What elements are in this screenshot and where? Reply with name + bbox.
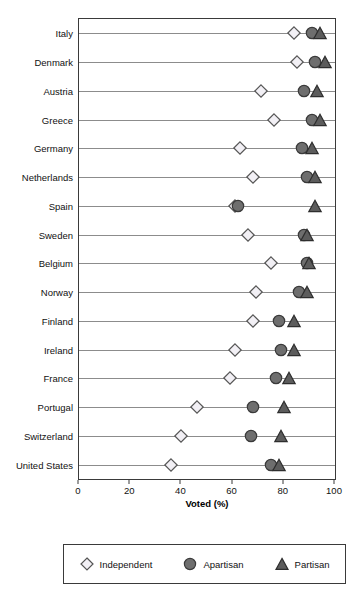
category-label: Spain [49, 200, 73, 211]
data-point-apartisan [244, 429, 258, 443]
plot-wrapper: ItalyDenmarkAustriaGreeceGermanyNetherla… [0, 0, 358, 510]
chart-legend: Independent Apartisan Partisan [63, 544, 346, 584]
data-point-partisan [277, 400, 291, 414]
data-point-partisan [287, 343, 301, 357]
category-label: Italy [56, 28, 73, 39]
x-axis-tick-label: 100 [326, 485, 342, 496]
category-label: United States [16, 459, 73, 470]
data-point-independent [228, 343, 242, 357]
x-axis-tick-label: 80 [278, 485, 289, 496]
data-point-partisan [282, 371, 296, 385]
category-label: Netherlands [22, 172, 73, 183]
x-axis-tick-label: 0 [75, 485, 80, 496]
row-connector-line [79, 465, 335, 466]
data-point-independent [287, 26, 301, 40]
data-point-partisan [287, 314, 301, 328]
x-axis-tick-label: 60 [226, 485, 237, 496]
data-point-apartisan [231, 199, 245, 213]
x-axis-tick [180, 480, 181, 484]
data-point-partisan [272, 458, 286, 472]
data-point-partisan [308, 199, 322, 213]
x-axis-tick [78, 480, 79, 484]
category-label: Sweden [39, 229, 73, 240]
data-point-independent [241, 228, 255, 242]
data-point-apartisan [272, 314, 286, 328]
row-connector-line [79, 378, 335, 379]
data-point-partisan [305, 141, 319, 155]
category-label: Switzerland [24, 430, 73, 441]
category-label: Denmark [34, 57, 73, 68]
chart-page: ItalyDenmarkAustriaGreeceGermanyNetherla… [0, 0, 358, 603]
x-axis-tick-label: 20 [124, 485, 135, 496]
data-point-partisan [308, 170, 322, 184]
data-point-independent [164, 458, 178, 472]
data-point-independent [267, 113, 281, 127]
data-point-apartisan [246, 400, 260, 414]
category-label: Norway [41, 287, 73, 298]
legend-label-independent: Independent [100, 559, 153, 570]
data-point-independent [254, 84, 268, 98]
legend-label-apartisan: Apartisan [203, 559, 243, 570]
legend-item-partisan: Partisan [275, 557, 330, 571]
x-axis-tick [334, 480, 335, 484]
data-point-independent [246, 170, 260, 184]
data-point-partisan [313, 26, 327, 40]
row-connector-line [79, 263, 335, 264]
category-label: Portugal [38, 402, 73, 413]
data-point-independent [290, 55, 304, 69]
data-point-independent [190, 400, 204, 414]
data-point-partisan [310, 84, 324, 98]
data-point-independent [233, 141, 247, 155]
category-label: France [43, 373, 73, 384]
data-point-independent [174, 429, 188, 443]
circle-filled-icon [183, 557, 197, 571]
row-connector-line [79, 206, 335, 207]
row-connector-line [79, 436, 335, 437]
triangle-filled-icon [275, 557, 289, 571]
legend-item-apartisan: Apartisan [183, 557, 243, 571]
data-point-partisan [318, 55, 332, 69]
legend-label-partisan: Partisan [295, 559, 330, 570]
x-axis-tick [282, 480, 283, 484]
data-point-independent [223, 371, 237, 385]
category-label: Finland [42, 315, 73, 326]
row-connector-line [79, 177, 335, 178]
x-axis-tick [231, 480, 232, 484]
data-point-independent [264, 256, 278, 270]
x-axis: Voted (%) 020406080100 [78, 480, 336, 510]
x-axis-title: Voted (%) [78, 498, 336, 509]
category-label: Germany [34, 143, 73, 154]
row-connector-line [79, 120, 335, 121]
data-point-partisan [313, 113, 327, 127]
x-axis-tick-label: 40 [175, 485, 186, 496]
data-point-partisan [300, 228, 314, 242]
category-label: Austria [43, 85, 73, 96]
data-point-partisan [274, 429, 288, 443]
category-label: Greece [42, 114, 73, 125]
diamond-open-icon [80, 557, 94, 571]
category-label: Ireland [44, 344, 73, 355]
data-point-partisan [300, 285, 314, 299]
data-point-partisan [302, 256, 316, 270]
legend-item-independent: Independent [80, 557, 153, 571]
x-axis-tick [129, 480, 130, 484]
category-label: Belgium [39, 258, 73, 269]
plot-area: ItalyDenmarkAustriaGreeceGermanyNetherla… [78, 18, 336, 480]
data-point-independent [249, 285, 263, 299]
data-point-independent [246, 314, 260, 328]
row-connector-line [79, 407, 335, 408]
